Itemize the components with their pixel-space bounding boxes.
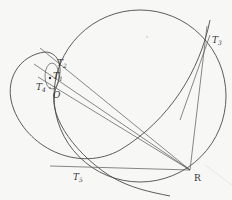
label-T4: T4 [36, 82, 46, 93]
line-T3-extension [180, 35, 210, 120]
point-T1-marker [49, 77, 51, 79]
faint-line-past-R [205, 165, 232, 185]
line-R-T3 [190, 26, 207, 170]
line-R-T5 [50, 166, 190, 170]
faint-dot [146, 36, 148, 38]
label-T3: T3 [212, 35, 222, 46]
label-O: O [53, 90, 61, 100]
point-O-marker [49, 87, 51, 89]
label-R: R [194, 173, 201, 183]
label-T2: T2 [57, 58, 67, 69]
geometry-diagram: T2 T1 T4 O T3 T5 R [0, 0, 232, 200]
label-T1: T1 [53, 71, 63, 82]
large-circle [54, 10, 226, 182]
label-T5: T5 [73, 172, 83, 183]
